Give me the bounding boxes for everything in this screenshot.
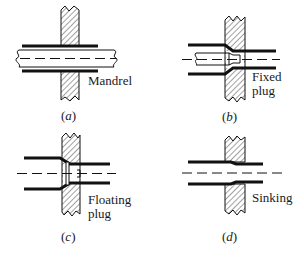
caption-close: ): [72, 108, 76, 123]
die-upper: [225, 136, 245, 162]
caption-d: (d): [222, 229, 237, 245]
label-line-2: plug: [252, 84, 282, 98]
tube-wall-upper: [188, 162, 263, 164]
label-line-1: Floating: [88, 193, 131, 207]
die-lower: [225, 184, 245, 215]
tube-drawing-figure: Mandrel Fixed plug Floating plug Sinking…: [0, 0, 304, 258]
label-line-1: Fixed: [252, 70, 282, 84]
diagram-canvas: [0, 0, 304, 258]
label-line-2: plug: [88, 207, 131, 221]
caption-close: ): [233, 229, 237, 244]
plug-rod-break: [195, 53, 197, 65]
label-sinking: Sinking: [252, 191, 292, 205]
caption-c: (c): [61, 229, 75, 245]
label-text: Mandrel: [88, 73, 132, 88]
caption-a: (a): [61, 108, 76, 124]
die-upper: [61, 6, 79, 46]
mandrel-break-left: [16, 50, 20, 67]
label-fixed-plug: Fixed plug: [252, 70, 282, 98]
tube-wall-lower: [188, 182, 263, 184]
die-lower: [61, 71, 79, 101]
label-text: Sinking: [252, 190, 292, 205]
label-floating-plug: Floating plug: [88, 193, 131, 221]
caption-b: (b): [222, 109, 237, 125]
caption-close: ): [71, 229, 75, 244]
label-mandrel: Mandrel: [88, 74, 132, 88]
caption-close: ): [233, 109, 237, 124]
